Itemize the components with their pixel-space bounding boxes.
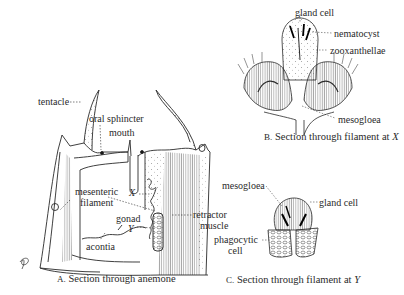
- caption-b-prefix: B.: [264, 132, 272, 142]
- label-x: X: [129, 187, 135, 198]
- filament-y-section: [262, 186, 318, 257]
- label-nematocyst: nematocyst: [334, 28, 380, 39]
- label-mesogloea-c: mesogloea: [222, 180, 265, 191]
- caption-c: C. Section through filament at Y: [226, 274, 360, 285]
- label-y: Y: [128, 223, 134, 234]
- label-gland-cell-b: gland cell: [295, 7, 334, 18]
- label-oral-sphincter: oral sphincter: [89, 113, 144, 124]
- label-phagocytic: phagocytic: [214, 234, 258, 245]
- label-mesenteric: mesenteric: [75, 186, 118, 197]
- label-tentacle: tentacle: [38, 96, 69, 107]
- label-cell: cell: [228, 245, 242, 256]
- label-mesogloea-b: mesogloea: [338, 114, 381, 125]
- label-muscle: muscle: [200, 220, 228, 231]
- caption-a-text: Section through anemone: [68, 273, 175, 284]
- label-zooxanthellae: zooxanthellae: [330, 45, 386, 56]
- caption-b: B. Section through filament at X: [264, 131, 399, 142]
- label-retractor: retractor: [193, 209, 227, 220]
- caption-b-text: Section through filament at: [275, 131, 390, 142]
- label-gland-cell-c: gland cell: [319, 197, 358, 208]
- label-filament: filament: [80, 197, 113, 208]
- label-acontia: acontia: [86, 241, 115, 252]
- caption-c-var: Y: [354, 274, 360, 285]
- caption-b-var: X: [392, 131, 398, 142]
- caption-c-text: Section through filament at: [237, 274, 352, 285]
- caption-a: A. Section through anemone: [57, 273, 176, 284]
- label-mouth: mouth: [109, 127, 135, 138]
- caption-a-prefix: A.: [57, 274, 66, 284]
- caption-c-prefix: C.: [226, 275, 234, 285]
